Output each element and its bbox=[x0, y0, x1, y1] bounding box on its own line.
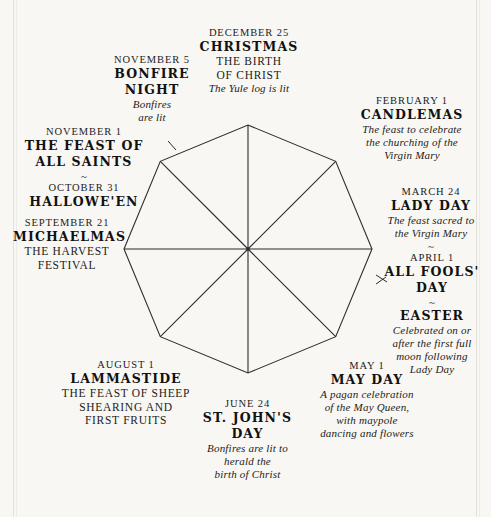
easter-tilde-separator: ~ bbox=[374, 297, 490, 308]
st-johns-day-date: JUNE 24 bbox=[185, 398, 310, 410]
michaelmas-subtitle-line-1: THE HARVEST bbox=[13, 245, 121, 259]
christmas-subtitle-line-2: OF CHRIST bbox=[199, 69, 299, 83]
christmas-description-line-1: The Yule log is lit bbox=[199, 82, 299, 95]
all-fools-day-title-line-1: ALL FOOLS' bbox=[374, 265, 490, 280]
spoke-candlemas bbox=[248, 161, 336, 249]
lady-day-tilde-separator: ~ bbox=[372, 241, 490, 252]
node-all-fools-easter[interactable]: APRIL 1 ALL FOOLS' DAY ~ EASTER Celebrat… bbox=[374, 252, 490, 376]
bonfire-night-title-line-1: BONFIRE bbox=[111, 67, 193, 82]
easter-description-line-3: moon following bbox=[374, 350, 490, 363]
spoke-all-fools bbox=[248, 249, 336, 337]
wheel-center-point bbox=[246, 247, 250, 251]
candlemas-date: FEBRUARY 1 bbox=[339, 95, 485, 107]
tick-mark-upper-left bbox=[168, 141, 176, 150]
lammastide-subtitle-line-2: SHEARING AND bbox=[56, 401, 196, 415]
bonfire-night-title-line-2: NIGHT bbox=[111, 83, 193, 98]
lammastide-title: LAMMASTIDE bbox=[56, 372, 196, 387]
node-st-johns-day[interactable]: JUNE 24 ST. JOHN'S DAY Bonfires are lit … bbox=[185, 398, 310, 481]
lady-day-date: MARCH 24 bbox=[372, 186, 490, 198]
lady-day-description-line-2: the Virgin Mary bbox=[372, 227, 490, 240]
may-day-description-line-4: dancing and flowers bbox=[302, 427, 432, 440]
candlemas-description-line-3: Virgin Mary bbox=[339, 149, 485, 162]
all-saints-tilde-separator: ~ bbox=[21, 171, 147, 182]
bonfire-night-description-line-2: are lit bbox=[111, 111, 193, 124]
may-day-description-line-3: with maypole bbox=[302, 414, 432, 427]
lammastide-date: AUGUST 1 bbox=[56, 359, 196, 371]
christmas-date: DECEMBER 25 bbox=[199, 27, 299, 39]
spoke-all-saints bbox=[160, 161, 248, 249]
christmas-subtitle-line-1: THE BIRTH bbox=[199, 55, 299, 69]
wheel-of-the-year-page: DECEMBER 25 CHRISTMAS THE BIRTH OF CHRIS… bbox=[0, 0, 491, 517]
halloween-title: HALLOWE'EN bbox=[21, 195, 147, 210]
spoke-lammastide bbox=[160, 249, 248, 337]
node-lady-day[interactable]: MARCH 24 LADY DAY The feast sacred to th… bbox=[372, 186, 490, 252]
st-johns-day-title-line-1: ST. JOHN'S bbox=[185, 411, 310, 426]
lady-day-description-line-1: The feast sacred to bbox=[372, 214, 490, 227]
may-day-title: MAY DAY bbox=[302, 373, 432, 388]
lammastide-subtitle-line-1: THE FEAST OF SHEEP bbox=[56, 387, 196, 401]
node-michaelmas[interactable]: SEPTEMBER 21 MICHAELMAS THE HARVEST FEST… bbox=[13, 217, 121, 272]
candlemas-description-line-1: The feast to celebrate bbox=[339, 123, 485, 136]
all-fools-day-title-line-2: DAY bbox=[374, 281, 490, 296]
node-bonfire-night[interactable]: NOVEMBER 5 BONFIRE NIGHT Bonfires are li… bbox=[111, 54, 193, 124]
easter-description-line-2: after the first full bbox=[374, 337, 490, 350]
halloween-date: OCTOBER 31 bbox=[21, 182, 147, 194]
node-all-saints-halloween[interactable]: NOVEMBER 1 THE FEAST OF ALL SAINTS ~ OCT… bbox=[21, 126, 147, 210]
easter-description-line-4: Lady Day bbox=[374, 363, 490, 376]
all-saints-title-line-1: THE FEAST OF bbox=[21, 139, 147, 154]
bonfire-night-date: NOVEMBER 5 bbox=[111, 54, 193, 66]
all-saints-title-line-2: ALL SAINTS bbox=[21, 155, 147, 170]
michaelmas-date: SEPTEMBER 21 bbox=[13, 217, 121, 229]
easter-description-line-1: Celebrated on or bbox=[374, 324, 490, 337]
st-johns-day-description-line-3: birth of Christ bbox=[185, 468, 310, 481]
all-fools-day-date: APRIL 1 bbox=[374, 252, 490, 264]
candlemas-description-line-2: the churching of the bbox=[339, 136, 485, 149]
st-johns-day-title-line-2: DAY bbox=[185, 427, 310, 442]
may-day-description-line-1: A pagan celebration bbox=[302, 388, 432, 401]
michaelmas-subtitle-line-2: FESTIVAL bbox=[13, 259, 121, 273]
candlemas-title: CANDLEMAS bbox=[339, 108, 485, 123]
st-johns-day-description-line-1: Bonfires are lit to bbox=[185, 442, 310, 455]
christmas-title: CHRISTMAS bbox=[199, 40, 299, 55]
all-saints-date: NOVEMBER 1 bbox=[21, 126, 147, 138]
node-lammastide[interactable]: AUGUST 1 LAMMASTIDE THE FEAST OF SHEEP S… bbox=[56, 359, 196, 428]
michaelmas-title: MICHAELMAS bbox=[13, 230, 121, 245]
lady-day-title: LADY DAY bbox=[372, 199, 490, 214]
bonfire-night-description-line-1: Bonfires bbox=[111, 98, 193, 111]
node-candlemas[interactable]: FEBRUARY 1 CANDLEMAS The feast to celebr… bbox=[339, 95, 485, 162]
node-christmas[interactable]: DECEMBER 25 CHRISTMAS THE BIRTH OF CHRIS… bbox=[199, 27, 299, 95]
lammastide-subtitle-line-3: FIRST FRUITS bbox=[56, 414, 196, 428]
easter-title: EASTER bbox=[374, 309, 490, 324]
st-johns-day-description-line-2: herald the bbox=[185, 455, 310, 468]
may-day-description-line-2: of the May Queen, bbox=[302, 401, 432, 414]
